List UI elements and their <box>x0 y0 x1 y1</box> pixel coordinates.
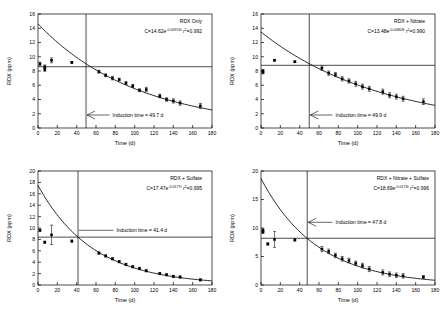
svg-text:Time (d): Time (d) <box>115 297 136 303</box>
svg-text:140: 140 <box>169 287 178 293</box>
svg-text:C=17.47e-0.0177t r2=0.995: C=17.47e-0.0177t r2=0.995 <box>146 185 202 191</box>
svg-text:4: 4 <box>32 259 35 265</box>
panel-bottom-right: 02040608010012014016018005101520Time (d)… <box>223 157 446 314</box>
svg-text:60: 60 <box>93 130 99 136</box>
svg-text:14: 14 <box>252 25 258 31</box>
panel-plot-area: 0204060801001201401601800246810121416182… <box>0 157 223 314</box>
svg-text:RDX (ppm): RDX (ppm) <box>6 214 12 242</box>
svg-text:C=14.62e-0.00974t r2=0.992: C=14.62e-0.00974t r2=0.992 <box>144 28 202 34</box>
svg-text:80: 80 <box>335 130 341 136</box>
svg-text:0: 0 <box>37 130 40 136</box>
svg-text:RDX (ppm): RDX (ppm) <box>229 57 235 85</box>
svg-text:C=13.48e-0.00803t r2=0.990: C=13.48e-0.00803t r2=0.990 <box>367 28 425 34</box>
svg-text:140: 140 <box>392 130 401 136</box>
svg-text:180: 180 <box>208 130 217 136</box>
svg-text:160: 160 <box>188 130 197 136</box>
svg-text:2: 2 <box>32 111 35 117</box>
svg-text:0: 0 <box>255 125 258 131</box>
panel-plot-area: 0204060801001201401601800246810121416Tim… <box>0 0 223 157</box>
svg-text:0: 0 <box>260 287 263 293</box>
svg-text:4: 4 <box>32 96 35 102</box>
svg-text:100: 100 <box>130 287 139 293</box>
svg-text:60: 60 <box>316 287 322 293</box>
svg-text:100: 100 <box>353 130 362 136</box>
panel-bottom-left: 0204060801001201401601800246810121416182… <box>0 157 223 314</box>
svg-text:20: 20 <box>54 130 60 136</box>
svg-text:10: 10 <box>29 225 35 231</box>
svg-text:40: 40 <box>74 130 80 136</box>
svg-text:140: 140 <box>169 130 178 136</box>
svg-text:40: 40 <box>297 287 303 293</box>
svg-text:Induction time = 47.8 d: Induction time = 47.8 d <box>336 219 387 225</box>
svg-text:6: 6 <box>32 248 35 254</box>
svg-text:RDX (ppm): RDX (ppm) <box>6 57 12 85</box>
svg-text:Induction time = 41.4 d: Induction time = 41.4 d <box>116 227 167 233</box>
svg-text:160: 160 <box>411 130 420 136</box>
svg-text:2: 2 <box>255 111 258 117</box>
panel-top-right: 0204060801001201401601800246810121416Tim… <box>223 0 446 157</box>
svg-text:8: 8 <box>32 236 35 242</box>
svg-text:60: 60 <box>316 130 322 136</box>
svg-text:0: 0 <box>260 130 263 136</box>
svg-text:12: 12 <box>29 39 35 45</box>
svg-text:14: 14 <box>29 202 35 208</box>
svg-text:RDX + Sulfate: RDX + Sulfate <box>170 175 202 181</box>
svg-text:20: 20 <box>54 287 60 293</box>
svg-text:120: 120 <box>373 287 382 293</box>
svg-text:RDX + Nitrate: RDX + Nitrate <box>394 18 425 24</box>
svg-text:Time (d): Time (d) <box>338 140 359 146</box>
svg-text:2: 2 <box>32 271 35 277</box>
svg-text:0: 0 <box>37 287 40 293</box>
svg-text:18: 18 <box>29 179 35 185</box>
panel-plot-area: 0204060801001201401601800246810121416Tim… <box>223 0 446 157</box>
svg-text:4: 4 <box>255 96 258 102</box>
svg-text:140: 140 <box>392 287 401 293</box>
svg-text:14: 14 <box>29 25 35 31</box>
svg-text:RDX + Nitrate + Sulfate: RDX + Nitrate + Sulfate <box>377 175 429 181</box>
svg-text:160: 160 <box>188 287 197 293</box>
svg-text:16: 16 <box>252 11 258 17</box>
svg-text:Induction time = 49.9 d: Induction time = 49.9 d <box>336 112 387 118</box>
svg-text:20: 20 <box>277 130 283 136</box>
svg-text:120: 120 <box>150 287 159 293</box>
svg-text:10: 10 <box>29 54 35 60</box>
svg-text:120: 120 <box>373 130 382 136</box>
svg-text:5: 5 <box>255 253 258 259</box>
svg-text:0: 0 <box>32 125 35 131</box>
svg-text:Induction time = 49.7 d: Induction time = 49.7 d <box>113 112 164 118</box>
svg-text:8: 8 <box>32 68 35 74</box>
svg-text:12: 12 <box>252 39 258 45</box>
svg-text:0: 0 <box>32 282 35 288</box>
svg-text:20: 20 <box>277 287 283 293</box>
svg-text:Time (d): Time (d) <box>338 297 359 303</box>
svg-text:10: 10 <box>252 225 258 231</box>
svg-text:180: 180 <box>208 287 217 293</box>
svg-text:12: 12 <box>29 214 35 220</box>
svg-text:15: 15 <box>252 196 258 202</box>
svg-text:60: 60 <box>93 287 99 293</box>
svg-text:10: 10 <box>252 54 258 60</box>
rdx-degradation-figure: 0204060801001201401601800246810121416Tim… <box>0 0 446 315</box>
svg-text:6: 6 <box>32 82 35 88</box>
svg-text:16: 16 <box>29 191 35 197</box>
svg-text:Time (d): Time (d) <box>115 140 136 146</box>
svg-text:20: 20 <box>252 168 258 174</box>
svg-text:C=18.69e-0.0173t r2=0.996: C=18.69e-0.0173t r2=0.996 <box>373 185 429 191</box>
svg-text:100: 100 <box>353 287 362 293</box>
svg-text:RDX Only: RDX Only <box>180 18 203 24</box>
svg-text:40: 40 <box>297 130 303 136</box>
svg-text:180: 180 <box>431 287 440 293</box>
svg-text:80: 80 <box>112 130 118 136</box>
svg-text:RDX (ppm): RDX (ppm) <box>229 214 235 242</box>
svg-text:180: 180 <box>431 130 440 136</box>
svg-text:0: 0 <box>255 282 258 288</box>
svg-text:100: 100 <box>130 130 139 136</box>
svg-text:80: 80 <box>335 287 341 293</box>
panel-plot-area: 02040608010012014016018005101520Time (d)… <box>223 157 446 314</box>
svg-text:20: 20 <box>29 168 35 174</box>
svg-text:40: 40 <box>74 287 80 293</box>
svg-text:160: 160 <box>411 287 420 293</box>
svg-text:8: 8 <box>255 68 258 74</box>
svg-text:80: 80 <box>112 287 118 293</box>
svg-text:6: 6 <box>255 82 258 88</box>
